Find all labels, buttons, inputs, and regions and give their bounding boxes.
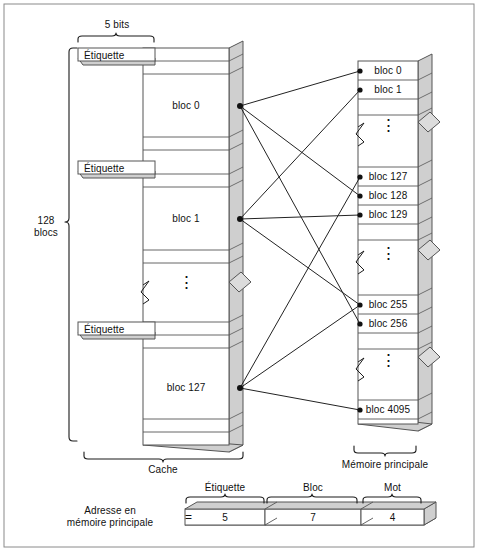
memory-ellipsis-2: ⋮ — [365, 247, 411, 260]
memory-block-label-6: bloc 256 — [358, 318, 418, 329]
cache-block-label-1: bloc 1 — [143, 213, 229, 224]
memory-ellipsis-1: ⋮ — [365, 119, 411, 132]
memory-block-label-2: bloc 127 — [358, 171, 418, 182]
main-memory-3d-body — [358, 54, 432, 431]
cache-ellipsis: ⋮ — [163, 276, 209, 289]
address-caption-line1: Adresse en — [50, 505, 170, 517]
memory-ellipsis-3: ⋮ — [365, 354, 411, 367]
memory-block-label-7: bloc 4095 — [356, 404, 420, 415]
memory-caption: Mémoire principale — [330, 459, 440, 470]
address-field-name-0: Étiquette — [185, 482, 265, 493]
address-field-bits-2: 4 — [361, 512, 424, 523]
address-caption-line2: mémoire principale — [42, 517, 178, 529]
memory-block-label-4: bloc 129 — [358, 209, 418, 220]
cache-mapping-figure: .ln{stroke:#1a1a1a;stroke-width:1;fill:n… — [0, 0, 479, 552]
address-field-name-1: Bloc — [265, 482, 361, 493]
address-field-bits-0: 5 — [185, 512, 265, 523]
memory-block-label-1: bloc 1 — [358, 84, 418, 95]
five-bits-label: 5 bits — [86, 19, 148, 30]
cache-block-label-2: bloc 127 — [143, 382, 229, 393]
cache-tag-label-2: Étiquette — [84, 324, 124, 335]
cache-size-label-line1: 128 — [27, 215, 65, 227]
memory-block-label-3: bloc 128 — [358, 190, 418, 201]
cache-tag-label-1: Étiquette — [84, 163, 124, 174]
cache-caption: Cache — [133, 464, 193, 475]
address-field-bits-1: 7 — [265, 512, 361, 523]
memory-block-label-0: bloc 0 — [358, 65, 418, 76]
memory-block-label-5: bloc 255 — [358, 299, 418, 310]
cache-block-label-0: bloc 0 — [143, 100, 229, 111]
address-field-name-2: Mot — [361, 482, 424, 493]
cache-tag-label-0: Étiquette — [84, 50, 124, 61]
cache-size-label-line2: blocs — [27, 227, 65, 239]
